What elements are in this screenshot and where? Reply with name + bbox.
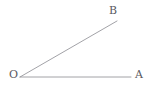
vertex-label-o: O: [9, 69, 18, 80]
point-label-a: A: [135, 69, 143, 80]
ray-ob-line: [20, 21, 117, 77]
angle-diagram-canvas: [0, 0, 153, 90]
point-label-b: B: [109, 5, 117, 16]
angle-diagram-figure: O A B: [0, 0, 153, 90]
